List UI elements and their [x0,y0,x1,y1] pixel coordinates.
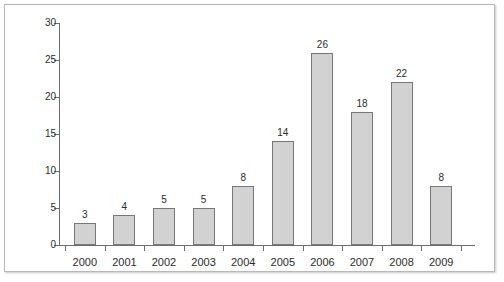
bar-value-label: 8 [421,172,461,184]
x-axis-tick-mark [461,246,462,251]
x-axis-tick-label: 2005 [263,255,303,269]
x-axis-tick-label: 2006 [303,255,343,269]
y-axis-tick-label: 5 [50,201,56,214]
bar [272,141,294,245]
bar-value-label: 26 [303,39,343,51]
x-axis-tick-label: 2004 [223,255,263,269]
bar-value-label: 3 [65,209,105,221]
x-axis-tick-label: 2001 [105,255,145,269]
x-axis-tick-mark [303,246,304,251]
bar [74,223,96,245]
bar [311,53,333,245]
bar [351,112,373,245]
x-axis-tick-mark [382,246,383,251]
x-axis-tick-label: 2000 [65,255,105,269]
bar [193,208,215,245]
plot-area: 051015202530 200020012002200320042005200… [59,23,475,245]
x-axis-tick-mark [342,246,343,251]
y-axis-tick-label: 0 [50,238,56,251]
bar-value-label: 18 [342,98,382,110]
x-axis-tick-mark [263,246,264,251]
x-axis-tick-label: 2009 [421,255,461,269]
x-axis-tick-label: 2002 [144,255,184,269]
x-axis-tick-mark [223,246,224,251]
bar [113,215,135,245]
y-axis-line [59,23,60,245]
bar [232,186,254,245]
bar-value-label: 5 [184,194,224,206]
x-axis-tick-mark [144,246,145,251]
y-axis-tick-label: 10 [45,164,56,177]
x-axis-line [59,245,475,246]
x-axis-tick-label: 2008 [382,255,422,269]
bar-value-label: 4 [105,201,145,213]
bar-value-label: 22 [382,68,422,80]
bar [391,82,413,245]
x-axis-tick-mark [421,246,422,251]
bar [430,186,452,245]
bar-value-label: 5 [144,194,184,206]
bar-value-label: 14 [263,127,303,139]
x-axis-tick-label: 2003 [184,255,224,269]
x-axis-tick-mark [105,246,106,251]
y-axis-tick-label: 25 [45,53,56,66]
chart-frame: 051015202530 200020012002200320042005200… [4,4,495,272]
y-axis-tick-label: 15 [45,127,56,140]
x-axis-tick-mark [184,246,185,251]
x-axis-tick-mark [65,246,66,251]
bar [153,208,175,245]
x-axis-tick-label: 2007 [342,255,382,269]
bar-value-label: 8 [223,172,263,184]
y-axis-tick-label: 30 [45,16,56,29]
y-axis-tick-label: 20 [45,90,56,103]
